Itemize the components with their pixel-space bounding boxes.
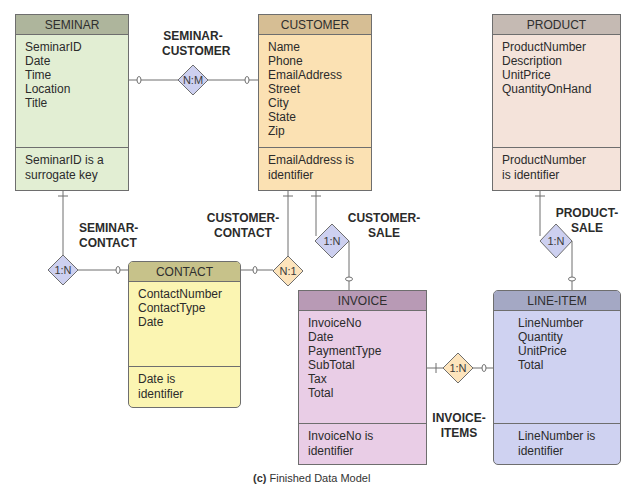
- optional-circle-mark: [346, 277, 353, 281]
- optional-circle-mark: [116, 267, 120, 274]
- label-line: CUSTOMER-: [346, 211, 422, 226]
- attribute: Zip: [268, 124, 362, 138]
- identifier-line: is identifier: [502, 168, 611, 183]
- identifier-line: identifier: [308, 444, 417, 459]
- caption-prefix: (c): [253, 472, 266, 484]
- relationship-label-customer-sale: CUSTOMER- SALE: [346, 211, 422, 241]
- cardinality-product-sale: 1:N: [547, 235, 564, 247]
- entity-header: LINE-ITEM: [494, 291, 620, 311]
- attribute: LineNumber: [518, 316, 611, 330]
- identifier-note: InvoiceNo is identifier: [299, 423, 426, 464]
- attribute: InvoiceNo: [308, 316, 417, 330]
- attribute: State: [268, 110, 362, 124]
- optional-circle-mark: [569, 277, 576, 281]
- entity-line-item[interactable]: LINE-ITEM LineNumber Quantity UnitPrice …: [493, 290, 621, 465]
- label-line: INVOICE-: [426, 411, 492, 426]
- attribute-list: ProductNumber Description UnitPrice Quan…: [493, 35, 620, 96]
- optional-circle-mark: [137, 77, 141, 84]
- identifier-line: identifier: [268, 168, 362, 183]
- relationship-label-customer-contact: CUSTOMER- CONTACT: [206, 211, 280, 241]
- label-line: CUSTOMER: [162, 44, 224, 59]
- label-line: SEMINAR-: [79, 221, 138, 236]
- identifier-line: Date is: [138, 372, 231, 387]
- attribute: Street: [268, 82, 362, 96]
- attribute-list: LineNumber Quantity UnitPrice Total: [494, 311, 620, 372]
- label-line: SALE: [554, 221, 620, 236]
- identifier-line: LineNumber is: [518, 429, 611, 444]
- identifier-line: SeminarID is a: [25, 153, 119, 168]
- attribute-list: ContactNumber ContactType Date: [129, 282, 240, 329]
- cardinality-customer-sale: 1:N: [323, 235, 340, 247]
- attribute: SubTotal: [308, 358, 417, 372]
- attribute-list: SeminarID Date Time Location Title: [16, 35, 128, 110]
- attribute: Quantity: [518, 330, 611, 344]
- entity-header: CUSTOMER: [259, 15, 371, 35]
- attribute: UnitPrice: [502, 68, 611, 82]
- entity-header: SEMINAR: [16, 15, 128, 35]
- figure-caption: (c) Finished Data Model: [253, 472, 370, 484]
- attribute: Location: [25, 82, 119, 96]
- entity-contact[interactable]: CONTACT ContactNumber ContactType Date D…: [128, 261, 241, 408]
- identifier-line: InvoiceNo is: [308, 429, 417, 444]
- attribute: ContactNumber: [138, 287, 231, 301]
- attribute: Time: [25, 68, 119, 82]
- attribute: Date: [138, 315, 231, 329]
- label-line: ITEMS: [426, 426, 492, 441]
- identifier-line: EmailAddress is: [268, 153, 362, 168]
- label-line: CONTACT: [79, 236, 138, 251]
- relationship-label-invoice-items: INVOICE- ITEMS: [426, 411, 492, 441]
- identifier-line: ProductNumber: [502, 153, 611, 168]
- optional-circle-mark: [253, 267, 257, 274]
- identifier-line: surrogate key: [25, 168, 119, 183]
- attribute: UnitPrice: [518, 344, 611, 358]
- label-line: CONTACT: [206, 226, 280, 241]
- label-line: SEMINAR-: [162, 29, 224, 44]
- caption-text: Finished Data Model: [270, 472, 371, 484]
- attribute: City: [268, 96, 362, 110]
- attribute: ProductNumber: [502, 40, 611, 54]
- label-line: SALE: [346, 226, 422, 241]
- cardinality-customer-contact: N:1: [279, 265, 296, 277]
- attribute: SeminarID: [25, 40, 119, 54]
- identifier-note: EmailAddress is identifier: [259, 147, 371, 190]
- attribute: Phone: [268, 54, 362, 68]
- optional-circle-mark: [245, 77, 249, 84]
- cardinality-seminar-contact: 1:N: [54, 264, 71, 276]
- identifier-note: Date is identifier: [129, 366, 240, 407]
- attribute-list: Name Phone EmailAddress Street City Stat…: [259, 35, 371, 138]
- label-line: CUSTOMER-: [206, 211, 280, 226]
- relationship-label-product-sale: PRODUCT- SALE: [554, 206, 620, 236]
- entity-product[interactable]: PRODUCT ProductNumber Description UnitPr…: [492, 14, 621, 191]
- attribute: QuantityOnHand: [502, 82, 611, 96]
- attribute: ContactType: [138, 301, 231, 315]
- cardinality-seminar-customer: N:M: [183, 74, 203, 86]
- relationship-label-seminar-customer: SEMINAR- CUSTOMER: [162, 29, 224, 59]
- identifier-note: ProductNumber is identifier: [493, 147, 620, 190]
- attribute: Description: [502, 54, 611, 68]
- entity-header: INVOICE: [299, 291, 426, 311]
- identifier-note: SeminarID is a surrogate key: [16, 147, 128, 190]
- attribute: PaymentType: [308, 344, 417, 358]
- attribute: Date: [25, 54, 119, 68]
- attribute: Total: [308, 386, 417, 400]
- attribute: Title: [25, 96, 119, 110]
- relationship-label-seminar-contact: SEMINAR- CONTACT: [79, 221, 138, 251]
- attribute: Total: [518, 358, 611, 372]
- attribute: Name: [268, 40, 362, 54]
- label-line: PRODUCT-: [554, 206, 620, 221]
- entity-header: PRODUCT: [493, 15, 620, 35]
- attribute: Tax: [308, 372, 417, 386]
- attribute: Date: [308, 330, 417, 344]
- identifier-note: LineNumber is identifier: [494, 423, 620, 464]
- identifier-line: identifier: [518, 444, 611, 459]
- entity-header: CONTACT: [129, 262, 240, 282]
- attribute: EmailAddress: [268, 68, 362, 82]
- optional-circle-mark: [482, 365, 486, 372]
- cardinality-invoice-items: 1:N: [449, 362, 466, 374]
- entity-invoice[interactable]: INVOICE InvoiceNo Date PaymentType SubTo…: [298, 290, 427, 465]
- identifier-line: identifier: [138, 387, 231, 402]
- entity-customer[interactable]: CUSTOMER Name Phone EmailAddress Street …: [258, 14, 372, 191]
- entity-seminar[interactable]: SEMINAR SeminarID Date Time Location Tit…: [15, 14, 129, 191]
- attribute-list: InvoiceNo Date PaymentType SubTotal Tax …: [299, 311, 426, 400]
